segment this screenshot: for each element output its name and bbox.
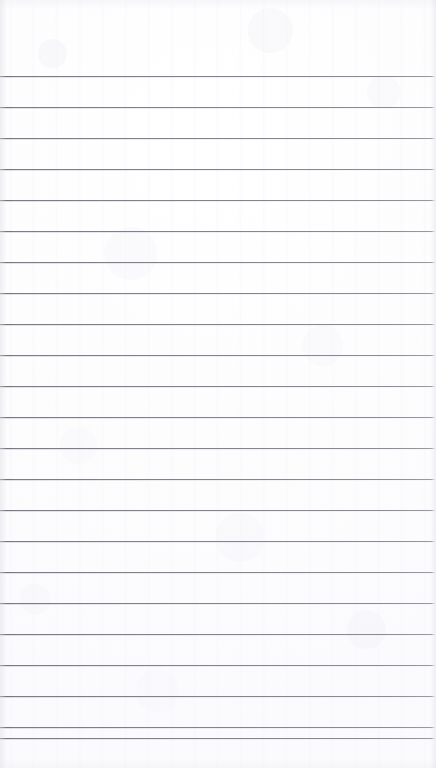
lined-paper-page xyxy=(0,0,436,768)
paper-edge-vignette xyxy=(0,0,436,768)
